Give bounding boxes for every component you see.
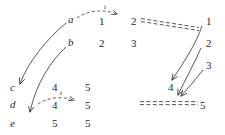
cell-col2-row5: 5	[85, 118, 91, 129]
object-label-d: d	[10, 99, 16, 110]
object-label-c: c	[10, 82, 15, 93]
mapping-arrow-2-to-5	[178, 48, 201, 95]
arrow-label-t-bottom: t	[60, 90, 62, 97]
cell-col2-row2: 3	[131, 38, 137, 49]
equality-line-top-lower	[141, 22, 199, 31]
diagram-vector-layer	[0, 0, 225, 135]
object-label-b: b	[68, 37, 74, 48]
object-label-a: a	[68, 14, 74, 25]
cell-col2-row3: 5	[85, 82, 91, 93]
cell-col3-row5: 5	[200, 100, 206, 111]
cell-col1-row2: 2	[99, 38, 105, 49]
cell-col3-row1: 1	[206, 16, 212, 27]
cell-col3-row4: 4	[168, 82, 174, 93]
cell-col1-row4: 4	[52, 100, 58, 111]
object-label-e: e	[10, 118, 15, 129]
mapping-arrow-1-to-4	[172, 26, 202, 80]
arrow-label-t-top: t	[104, 4, 106, 11]
cell-col2-row1: 2	[131, 16, 137, 27]
cell-col1-row3: 4	[52, 82, 58, 93]
cell-col3-row3: 3	[206, 60, 212, 71]
cell-col3-row2: 2	[206, 38, 212, 49]
mapping-arrow-b-to-e	[30, 47, 66, 112]
diagram-canvas: a b c d e 1 2 4 4 5 2 3 5 5 5 1 2 3 4 5 …	[0, 0, 225, 135]
transition-arrow-top	[77, 11, 117, 18]
cell-col1-row5: 5	[52, 118, 58, 129]
cell-col1-row1: 1	[99, 16, 105, 27]
cell-col2-row4: 5	[85, 100, 91, 111]
